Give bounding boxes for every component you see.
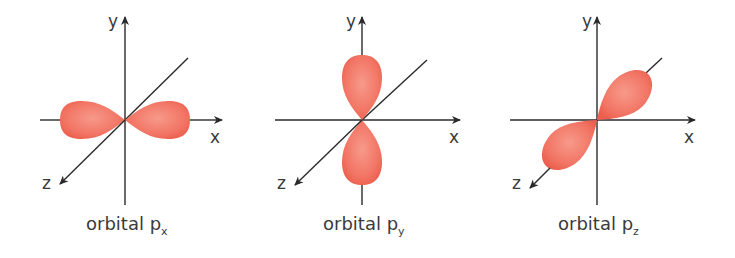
caption-text: orbital p: [323, 213, 398, 234]
x-label: x: [684, 127, 694, 147]
z-label: z: [512, 173, 521, 193]
lobe-top: [342, 55, 382, 120]
y-label: y: [346, 11, 356, 31]
z-label: z: [277, 173, 286, 193]
caption-text: orbital p: [558, 213, 633, 234]
y-label: y: [582, 11, 592, 31]
caption-subscript: x: [161, 225, 168, 238]
caption-subscript: z: [633, 225, 639, 238]
z-label: z: [42, 173, 51, 193]
panel-px: y x z: [40, 11, 222, 205]
y-label: y: [108, 11, 118, 31]
x-label: x: [449, 127, 459, 147]
panel-pz: y x z: [510, 11, 695, 205]
caption-pz: orbital pz: [558, 213, 639, 238]
z-axis-front: [530, 168, 550, 188]
lobe-bottom: [342, 120, 382, 185]
lobe-front: [542, 120, 597, 170]
lobe-back: [597, 70, 652, 120]
x-label: x: [210, 127, 220, 147]
panel-py: y x z: [275, 11, 460, 205]
caption-px: orbital px: [86, 213, 168, 238]
caption-text: orbital p: [86, 213, 161, 234]
z-axis-back: [646, 58, 662, 73]
lobe-right: [125, 101, 190, 139]
caption-py: orbital py: [323, 213, 405, 238]
lobe-left: [60, 101, 125, 139]
caption-subscript: y: [398, 225, 405, 238]
